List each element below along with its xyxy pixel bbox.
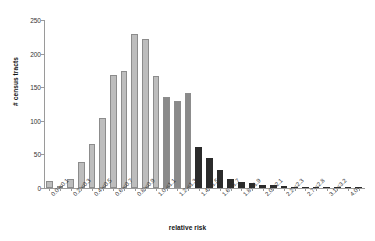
y-axis-tick-mark: [41, 188, 44, 189]
x-axis-tick-mark: [113, 188, 114, 191]
histogram-bar: [153, 76, 160, 188]
x-axis-tick-mark: [92, 188, 93, 191]
x-axis-tick-mark: [103, 188, 104, 191]
histogram-bar: [174, 101, 181, 188]
histogram-bar: [121, 71, 128, 188]
x-axis-tick-mark: [252, 188, 253, 191]
y-axis-tick-mark: [41, 54, 44, 55]
y-axis-tick-label: 100: [17, 117, 41, 124]
y-axis-tick-mark: [41, 154, 44, 155]
x-axis-tick-mark: [188, 188, 189, 191]
x-axis-tick-mark: [49, 188, 50, 191]
y-axis-tick-label: 200: [17, 50, 41, 57]
histogram-bar: [163, 97, 170, 188]
plot-area: 050100150200250: [44, 20, 364, 188]
x-axis-tick-mark: [124, 188, 125, 191]
histogram-bar: [142, 39, 149, 188]
x-axis-tick-mark: [348, 188, 349, 191]
x-axis-tick-mark: [295, 188, 296, 191]
x-axis-tick-mark: [305, 188, 306, 191]
x-axis-tick-mark: [337, 188, 338, 191]
x-axis-tick-mark: [220, 188, 221, 191]
x-axis-tick-mark: [209, 188, 210, 191]
x-axis-tick-mark: [135, 188, 136, 191]
x-axis-title: relative risk: [0, 224, 375, 231]
histogram-chart: # census tracts relative risk 0501001502…: [0, 0, 375, 241]
x-axis-tick-mark: [284, 188, 285, 191]
y-axis-tick-label: 250: [17, 17, 41, 24]
y-axis-tick-mark: [41, 87, 44, 88]
histogram-bar: [46, 181, 53, 188]
x-axis-tick-mark: [199, 188, 200, 191]
y-axis-tick-mark: [41, 20, 44, 21]
x-axis-tick-mark: [231, 188, 232, 191]
x-axis-tick-mark: [263, 188, 264, 191]
x-axis-tick-mark: [167, 188, 168, 191]
histogram-bar: [110, 75, 117, 188]
x-axis-tick-mark: [177, 188, 178, 191]
x-axis-tick-mark: [359, 188, 360, 191]
x-axis-tick-mark: [60, 188, 61, 191]
x-axis-tick-mark: [273, 188, 274, 191]
histogram-bar: [99, 118, 106, 188]
x-axis-tick-mark: [71, 188, 72, 191]
x-axis-tick-mark: [145, 188, 146, 191]
y-axis-tick-label: 150: [17, 84, 41, 91]
y-axis-tick-mark: [41, 121, 44, 122]
x-axis-tick-mark: [241, 188, 242, 191]
x-axis-tick-mark: [316, 188, 317, 191]
y-axis-tick-label: 0: [17, 185, 41, 192]
histogram-bar: [185, 93, 192, 188]
histogram-bar: [131, 34, 138, 188]
x-axis-tick-mark: [81, 188, 82, 191]
x-axis-tick-mark: [156, 188, 157, 191]
y-axis-tick-label: 50: [17, 151, 41, 158]
x-axis-tick-mark: [327, 188, 328, 191]
